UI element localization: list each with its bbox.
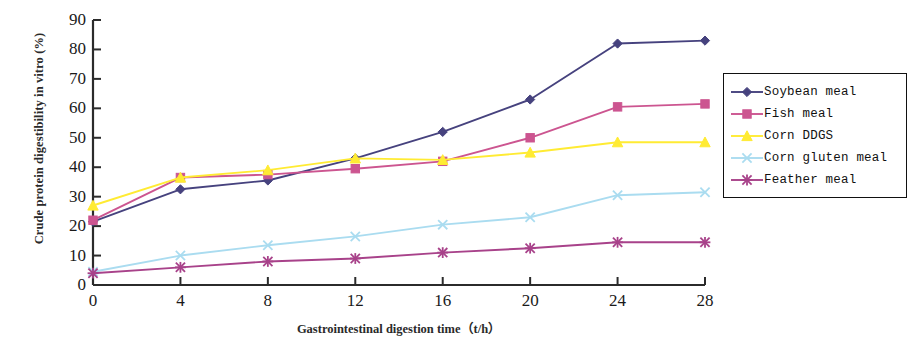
series-marker [89,216,97,224]
series-marker [525,243,536,254]
series-marker [700,36,709,45]
legend-swatch-x-icon [730,149,764,167]
legend-item[interactable]: Corn gluten meal [730,147,906,169]
x-tick-label: 8 [248,292,288,309]
series-marker [613,39,622,48]
y-tick-label: 80 [46,40,86,57]
series-marker [613,103,621,111]
x-tick-label: 16 [423,292,463,309]
series-marker [526,95,535,104]
legend-label: Corn DDGS [764,129,833,143]
y-tick-label: 50 [46,129,86,146]
series-marker [176,185,185,194]
x-axis-title: Gastrointestinal digestion time（t/h） [93,318,705,337]
x-tick-label: 0 [73,292,113,309]
legend-marker [743,110,751,118]
x-axis-tick-labels: 0481216202428 [0,292,907,316]
y-axis-tick-labels: 0102030405060708090 [40,0,86,338]
x-tick-label: 24 [598,292,638,309]
legend-swatch-square-icon [730,105,764,123]
series-marker [526,134,534,142]
legend-item[interactable]: Fish meal [730,103,906,125]
y-tick-label: 70 [46,70,86,87]
y-tick-label: 60 [46,99,86,116]
series-marker [438,127,447,136]
data-series [88,137,710,210]
legend-swatch-triangle-icon [730,127,764,145]
legend-label: Soybean meal [764,85,856,99]
y-tick-label: 0 [46,276,86,293]
x-tick-label: 20 [510,292,550,309]
series-marker [88,268,99,279]
chart-figure: Crude protein digestibility in vitro (%)… [0,0,907,338]
y-tick-label: 30 [46,188,86,205]
data-series [89,100,709,225]
x-tick-label: 4 [160,292,200,309]
series-marker [701,100,709,108]
legend-item[interactable]: Feather meal [730,169,906,191]
series-marker [351,164,359,172]
legend-marker [742,175,753,186]
legend-swatch-diamond-icon [730,83,764,101]
legend-label: Fish meal [764,107,833,121]
x-tick-label: 28 [685,292,725,309]
series-marker [176,185,185,194]
series-marker [175,262,186,273]
series-marker [613,103,621,111]
series-marker [350,253,361,264]
series-marker [262,256,273,267]
legend-marker [743,110,751,118]
legend-marker [742,87,751,96]
series-marker [700,36,709,45]
series-marker [701,100,709,108]
chart-svg [93,20,705,285]
y-tick-label: 90 [46,11,86,28]
series-marker [526,134,534,142]
series-line [93,104,705,220]
series-marker [612,237,623,248]
series-marker [700,237,711,248]
plot-area [93,20,705,285]
series-marker [89,216,97,224]
legend-swatch-asterisk-icon [730,171,764,189]
chart-legend: Soybean mealFish mealCorn DDGSCorn glute… [723,73,907,198]
legend-item[interactable]: Corn DDGS [730,125,906,147]
x-tick-label: 12 [335,292,375,309]
series-marker [438,127,447,136]
series-marker [613,39,622,48]
legend-label: Corn gluten meal [764,151,887,165]
y-tick-label: 40 [46,158,86,175]
legend-label: Feather meal [764,173,856,187]
series-line [93,41,705,222]
legend-item[interactable]: Soybean meal [730,81,906,103]
data-series [88,36,709,226]
y-tick-label: 20 [46,217,86,234]
data-series [88,188,709,277]
series-marker [437,247,448,258]
data-series [88,237,711,279]
series-marker [351,164,359,172]
legend-marker [742,87,751,96]
y-tick-label: 10 [46,247,86,264]
series-marker [526,95,535,104]
